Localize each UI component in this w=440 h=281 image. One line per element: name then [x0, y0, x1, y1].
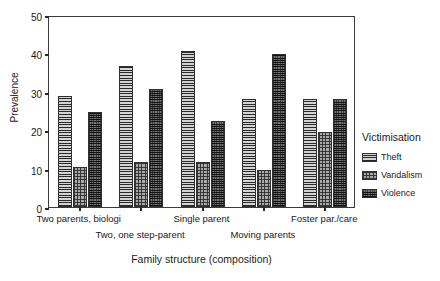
y-axis-tick-mark: [45, 93, 49, 95]
legend-label: Violence: [381, 188, 415, 198]
y-axis-tick-mark: [45, 170, 49, 172]
bar-group: [242, 17, 286, 207]
y-axis-tick-mark: [45, 208, 49, 210]
x-axis-tick-mark: [263, 207, 265, 211]
legend-swatch-theft: [362, 153, 377, 162]
y-axis-tick-mark: [45, 16, 49, 18]
legend-label: Vandalism: [381, 170, 422, 180]
legend-label: Theft: [381, 152, 402, 162]
legend-title: Victimisation: [362, 131, 440, 143]
x-axis-category-label: Moving parents: [230, 229, 295, 240]
plot-area: 01020304050: [48, 16, 355, 208]
bar-vandalism-4: [257, 170, 271, 207]
bar-theft-5: [303, 99, 317, 207]
y-axis-title: Prevalence: [9, 53, 20, 143]
bar-theft-1: [58, 96, 72, 207]
x-axis-category-label: Single parent: [174, 213, 230, 224]
x-axis-category-label: Two, one step-parent: [95, 229, 184, 240]
legend-items: TheftVandalismViolence: [362, 152, 440, 198]
bar-vandalism-3: [196, 162, 210, 207]
bar-group: [303, 17, 347, 207]
bar-vandalism-2: [134, 162, 148, 207]
bar-theft-2: [119, 66, 133, 207]
plot-inner: 01020304050: [49, 17, 354, 207]
bar-violence-2: [149, 89, 163, 207]
legend-swatch-vandalism: [362, 171, 377, 180]
x-axis-tick-mark: [324, 207, 326, 211]
legend-item-vandalism: Vandalism: [362, 170, 440, 180]
bar-violence-3: [211, 121, 225, 207]
bar-violence-1: [88, 112, 102, 207]
bar-theft-3: [181, 51, 195, 207]
bar-vandalism-1: [73, 167, 87, 207]
bar-vandalism-5: [318, 132, 332, 207]
legend: Victimisation TheftVandalismViolence: [362, 131, 440, 206]
x-axis-title: Family structure (composition): [48, 253, 355, 265]
x-axis-category-label: Two parents, biologi: [36, 213, 121, 224]
x-axis-tick-mark: [79, 207, 81, 211]
legend-item-theft: Theft: [362, 152, 440, 162]
chart-figure: Prevalence 01020304050 Family structure …: [0, 0, 440, 281]
bar-violence-5: [333, 99, 347, 207]
bar-group: [58, 17, 102, 207]
x-axis-tick-mark: [202, 207, 204, 211]
y-axis-tick-mark: [45, 54, 49, 56]
y-axis-tick-mark: [45, 131, 49, 133]
x-axis-category-label: Foster par./care: [291, 213, 358, 224]
x-axis-tick-mark: [140, 207, 142, 211]
legend-item-violence: Violence: [362, 188, 440, 198]
bar-theft-4: [242, 99, 256, 207]
bar-group: [119, 17, 163, 207]
bar-group: [181, 17, 225, 207]
bar-violence-4: [272, 54, 286, 207]
legend-swatch-violence: [362, 189, 377, 198]
